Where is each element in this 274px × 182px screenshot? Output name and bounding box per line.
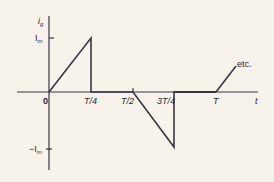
x-axis-label: t	[255, 97, 258, 106]
waveform-diagram: ig Im −Im 0 T/4 T/2 3T/4 T t etc.	[0, 0, 274, 182]
origin-label: 0	[43, 97, 48, 106]
x-tick-label-t2: T/2	[121, 97, 134, 106]
x-tick-label-3t4: 3T/4	[157, 97, 175, 106]
waveform-continuation	[216, 66, 236, 92]
y-tick-label-neg-im: −Im	[29, 145, 42, 155]
y-axis-label: ig	[38, 17, 43, 27]
etc-annotation: etc.	[237, 60, 252, 69]
x-tick-label-t: T	[213, 97, 219, 106]
y-tick-label-im: Im	[35, 34, 43, 44]
x-tick-label-t4: T/4	[84, 97, 97, 106]
